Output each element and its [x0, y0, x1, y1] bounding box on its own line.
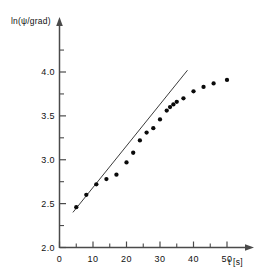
- y-tick-label: 3.5: [41, 111, 55, 121]
- data-point: [201, 85, 205, 89]
- tick-labels-group: 010203040502.02.53.03.54.0: [41, 67, 232, 264]
- data-point: [175, 100, 179, 104]
- x-tick-label: 40: [188, 254, 199, 264]
- chart-figure: 010203040502.02.53.03.54.0 ln(ψ/grad) t …: [0, 0, 271, 278]
- y-tick-label: 3.0: [41, 155, 55, 165]
- x-axis-arrowhead: [245, 244, 254, 251]
- data-point: [104, 177, 108, 181]
- data-point: [151, 126, 155, 130]
- data-points-group: [74, 78, 229, 210]
- y-tick-label: 2.0: [41, 243, 55, 253]
- data-point: [138, 138, 142, 142]
- axes-group: [56, 17, 254, 251]
- data-point: [165, 108, 169, 112]
- data-point: [84, 193, 88, 197]
- data-point: [158, 117, 162, 121]
- data-point: [225, 78, 229, 82]
- scatter-plot-svg: 010203040502.02.53.03.54.0 ln(ψ/grad) t …: [0, 0, 271, 278]
- data-point: [211, 81, 215, 85]
- data-point: [74, 205, 78, 209]
- x-tick-label: 30: [155, 254, 166, 264]
- data-point: [168, 105, 172, 109]
- linear-fit-line: [73, 70, 188, 212]
- x-axis-label: t [s]: [228, 257, 243, 267]
- data-point: [144, 130, 148, 134]
- data-point: [94, 182, 98, 186]
- tick-marks-group: [60, 50, 228, 247]
- data-point: [181, 96, 185, 100]
- data-point: [191, 89, 195, 93]
- x-tick-label: 0: [57, 254, 62, 264]
- x-tick-label: 10: [88, 254, 99, 264]
- y-axis-label: ln(ψ/grad): [11, 16, 51, 26]
- y-axis-arrowhead: [56, 17, 63, 26]
- data-point: [171, 102, 175, 106]
- y-tick-label: 2.5: [41, 199, 55, 209]
- data-point: [114, 173, 118, 177]
- y-tick-label: 4.0: [41, 67, 55, 77]
- x-tick-label: 20: [121, 254, 132, 264]
- data-point: [131, 151, 135, 155]
- data-point: [124, 160, 128, 164]
